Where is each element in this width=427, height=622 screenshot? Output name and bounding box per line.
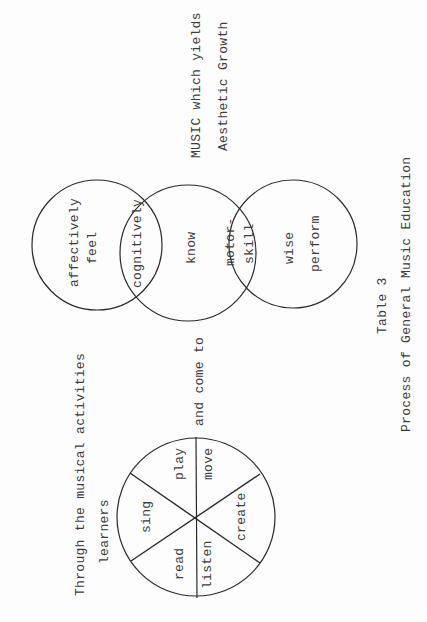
- intro-line-2: learners: [98, 499, 111, 564]
- caption-title: Process of General Music Education: [400, 157, 413, 432]
- caption-table-label: Table 3: [376, 277, 389, 334]
- diagram-shapes: [0, 0, 427, 622]
- venn-label-motor: motor-: [224, 217, 237, 266]
- outcome-line-1: MUSIC which yields: [190, 12, 203, 158]
- wheel-label-play: play: [173, 448, 186, 480]
- venn-label-cognitively: cognitively: [131, 199, 144, 288]
- diagram-page: MUSIC which yields Aesthetic Growth affe…: [0, 0, 427, 622]
- outcome-line-2: Aesthetic Growth: [217, 21, 230, 151]
- wheel-label-move: move: [202, 448, 215, 480]
- venn-label-feel: feel: [86, 232, 99, 264]
- wheel-label-create: create: [235, 492, 248, 541]
- venn-label-skill: skill: [243, 223, 256, 264]
- venn-label-perform: perform: [309, 215, 322, 272]
- wheel-label-read: read: [173, 548, 186, 580]
- venn-label-wise: wise: [283, 232, 296, 264]
- wheel-label-listen: listen: [201, 540, 214, 589]
- intro-line-1: Through the musical activities: [74, 353, 87, 596]
- venn-label-affectively: affectively: [68, 198, 81, 287]
- connector-text: and come to: [193, 337, 206, 426]
- wheel-label-sing: sing: [140, 501, 153, 533]
- venn-label-know: know: [185, 232, 198, 264]
